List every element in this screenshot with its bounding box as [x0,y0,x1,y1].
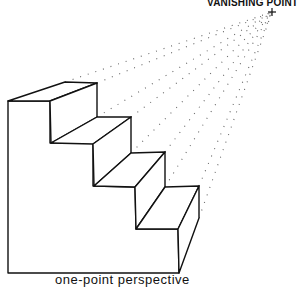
vanishing-point-label: VANISHING POINT [207,0,298,8]
vanishing-point-marker [268,8,276,16]
caption: one-point perspective [55,272,190,287]
staircase [8,82,199,273]
